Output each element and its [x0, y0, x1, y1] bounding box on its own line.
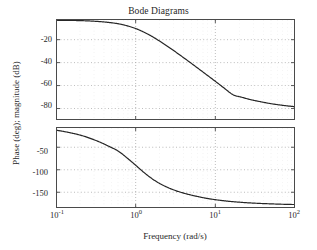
magnitude-axes-frame [57, 20, 295, 120]
phase-ytick-1: -100 [18, 167, 48, 177]
magnitude-ytick-0: -20 [22, 34, 52, 44]
x-tick-1: 100 [119, 210, 153, 220]
x-tick-0-mantissa: 10 [50, 210, 59, 220]
phase-ytick-0: -50 [18, 146, 48, 156]
x-tick-0: 10-1 [40, 210, 74, 220]
bode-figure: Bode Diagrams Phase (deg); magnitude (dB… [0, 0, 317, 250]
phase-ytick-2: -150 [18, 188, 48, 198]
x-tick-0-exponent: -1 [59, 208, 64, 215]
phase-curve [56, 130, 295, 204]
magnitude-ytick-3: -80 [22, 100, 52, 110]
x-axis-label: Frequency (rad/s) [55, 231, 295, 241]
x-tick-2: 101 [198, 210, 232, 220]
x-tick-3-mantissa: 10 [288, 210, 297, 220]
phase-subplot [56, 127, 295, 208]
chart-title: Bode Diagrams [0, 6, 317, 16]
x-tick-1-mantissa: 10 [130, 210, 139, 220]
x-tick-3-exponent: 2 [297, 208, 300, 215]
magnitude-ytick-2: -60 [22, 78, 52, 88]
magnitude-ytick-1: -40 [22, 56, 52, 66]
x-tick-3: 102 [277, 210, 311, 220]
magnitude-grid [56, 19, 295, 120]
magnitude-curve [56, 20, 295, 106]
x-tick-2-mantissa: 10 [209, 210, 218, 220]
x-tick-1-exponent: 0 [139, 208, 142, 215]
magnitude-subplot [56, 19, 295, 120]
x-tick-2-exponent: 1 [218, 208, 221, 215]
